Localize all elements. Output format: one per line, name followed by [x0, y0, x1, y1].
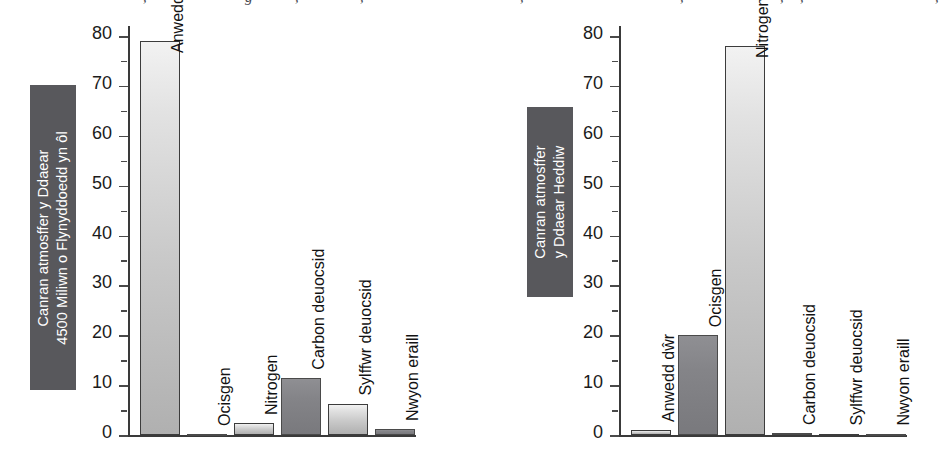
y-tick-minor [612, 61, 618, 63]
y-tick-major [119, 385, 128, 387]
y-tick-major [610, 136, 619, 138]
bar-label-sylffwr-deuocsid: Sylffwr deuocsid [848, 309, 866, 425]
y-tick-minor [612, 211, 618, 213]
bar-nitrogen[interactable] [725, 46, 765, 435]
y-tick-major [119, 435, 128, 437]
y-tick-minor [121, 410, 127, 412]
y-axis-title-line: Canran atmosffer [531, 145, 550, 258]
bar-label-nitrogen: Nitrogen [263, 355, 281, 415]
y-tick-major [610, 435, 619, 437]
y-axis-line [128, 26, 130, 437]
y-tick-minor [121, 61, 127, 63]
y-tick-label: 10 [72, 372, 112, 393]
plot-area-left: 01020304050607080Anwedd dŵrOcisgenNitrog… [118, 25, 418, 437]
y-tick-minor [121, 310, 127, 312]
y-tick-major [610, 335, 619, 337]
chart-panel-left: Canran atmosffer y Ddaear4500 Miliwn o F… [0, 0, 474, 469]
y-tick-label: 60 [563, 123, 603, 144]
bar-label-carbon-deuocsid: Carbon deuocsid [310, 249, 328, 370]
bar-label-sylffwr-deuocsid: Sylffwr deuocsid [357, 279, 375, 395]
y-tick-label: 80 [563, 23, 603, 44]
y-axis-title-text-left: Canran atmosffer y Ddaear4500 Miliwn o F… [34, 131, 72, 344]
y-tick-major [119, 136, 128, 138]
y-tick-label: 0 [563, 422, 603, 443]
bar-label-nwyon-eraill: Nwyon eraill [895, 338, 913, 425]
y-tick-major [119, 86, 128, 88]
y-tick-major [610, 186, 619, 188]
y-tick-minor [121, 161, 127, 163]
y-tick-label: 60 [72, 123, 112, 144]
y-tick-label: 0 [72, 422, 112, 443]
y-axis-line [619, 26, 621, 437]
bar-anwedd-d-r[interactable] [140, 41, 180, 435]
y-tick-minor [612, 260, 618, 262]
bar-carbon-deuocsid[interactable] [281, 378, 321, 435]
plot-area-right: 01020304050607080Anwedd dŵrOcisgenNitrog… [609, 25, 909, 437]
bar-sylffwr-deuocsid[interactable] [328, 404, 368, 435]
y-tick-major [610, 385, 619, 387]
y-tick-major [610, 36, 619, 38]
y-tick-label: 40 [72, 223, 112, 244]
y-tick-minor [612, 360, 618, 362]
bar-label-nwyon-eraill: Nwyon eraill [404, 334, 422, 421]
y-axis-title-line: 4500 Miliwn o Flynyddoedd yn ôl [53, 131, 72, 344]
bar-anwedd-d-r[interactable] [631, 430, 671, 435]
bar-label-nitrogen: Nitrogen [754, 0, 772, 58]
bar-ocisgen[interactable] [678, 335, 718, 435]
bar-label-ocisgen: Ocisgen [707, 269, 725, 328]
bar-sylffwr-deuocsid[interactable] [819, 434, 859, 436]
bar-ocisgen[interactable] [187, 434, 227, 436]
y-tick-label: 50 [563, 173, 603, 194]
y-tick-major [119, 236, 128, 238]
y-tick-minor [121, 111, 127, 113]
y-tick-minor [612, 111, 618, 113]
y-tick-minor [612, 410, 618, 412]
y-axis-title-box-left: Canran atmosffer y Ddaear4500 Miliwn o F… [30, 85, 76, 390]
bar-label-ocisgen: Ocisgen [216, 367, 234, 426]
y-tick-label: 70 [563, 73, 603, 94]
y-axis-title-line: Canran atmosffer y Ddaear [34, 131, 53, 344]
y-tick-label: 50 [72, 173, 112, 194]
y-tick-minor [121, 211, 127, 213]
x-axis-baseline [619, 435, 907, 437]
y-tick-major [610, 236, 619, 238]
y-tick-major [119, 186, 128, 188]
x-axis-baseline [128, 435, 416, 437]
y-tick-label: 40 [563, 223, 603, 244]
y-tick-label: 80 [72, 23, 112, 44]
bar-nitrogen[interactable] [234, 423, 274, 435]
y-tick-major [610, 86, 619, 88]
bar-label-anwedd-d-r: Anwedd dŵr [169, 0, 187, 53]
bar-nwyon-eraill[interactable] [866, 434, 906, 436]
bar-carbon-deuocsid[interactable] [772, 433, 812, 435]
y-tick-minor [612, 161, 618, 163]
bar-label-anwedd-d-r: Anwedd dŵr [660, 334, 678, 422]
y-tick-major [119, 36, 128, 38]
y-tick-label: 20 [72, 322, 112, 343]
chart-panel-right: Canran atmosffery Ddaear Heddiw 01020304… [474, 0, 948, 469]
y-tick-label: 70 [72, 73, 112, 94]
bar-label-carbon-deuocsid: Carbon deuocsid [801, 304, 819, 425]
y-tick-minor [121, 360, 127, 362]
bar-nwyon-eraill[interactable] [375, 429, 415, 435]
y-tick-label: 20 [563, 322, 603, 343]
y-tick-label: 30 [72, 272, 112, 293]
y-tick-minor [612, 310, 618, 312]
y-tick-major [119, 335, 128, 337]
y-tick-label: 30 [563, 272, 603, 293]
y-tick-label: 10 [563, 372, 603, 393]
y-tick-minor [121, 260, 127, 262]
y-tick-major [119, 285, 128, 287]
y-tick-major [610, 285, 619, 287]
